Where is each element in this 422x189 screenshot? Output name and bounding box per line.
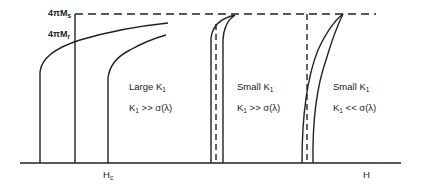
- small-k1-curve-right: [223, 15, 235, 163]
- label-h: H: [363, 169, 370, 180]
- region-small-k1-low-title: Small K1: [333, 81, 369, 93]
- region-large-k1-condition: K1 >> σ(λ): [129, 102, 172, 114]
- large-k1-curve-left: [40, 23, 168, 163]
- region-large-k1-title: Large K1: [129, 81, 166, 93]
- label-saturation: 4πMs: [48, 8, 71, 19]
- label-hc: Hc: [103, 169, 113, 181]
- large-k1-curve-right: [108, 35, 166, 163]
- region-small-k1-condition: K1 >> σ(λ): [237, 102, 280, 114]
- region-small-k1-title: Small K1: [237, 81, 273, 93]
- region-small-k1-low-condition: K1 << σ(λ): [333, 102, 376, 114]
- label-remanence: 4πMr: [48, 29, 70, 40]
